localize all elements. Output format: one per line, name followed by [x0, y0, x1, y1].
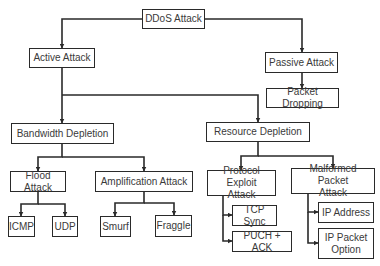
- edge-amplification-to-smurf: [115, 192, 144, 216]
- edge-ddos-to-active: [62, 19, 142, 48]
- node-flood: Flood Attack: [10, 171, 66, 192]
- edge-active-to-resource: [62, 95, 258, 122]
- node-puch-ack: PUCH + ACK: [232, 231, 292, 252]
- ddos-taxonomy-diagram: DDoS AttackActive AttackPassive AttackPa…: [0, 0, 380, 266]
- node-smurf: Smurf: [100, 216, 131, 237]
- node-ip-packet-option: IP Packet Option: [318, 228, 374, 259]
- node-fraggle: Fraggle: [155, 215, 192, 237]
- edge-malformed-to-ip_packet_option: [308, 212, 318, 243]
- edge-bandwidth-to-flood: [38, 144, 62, 171]
- node-amplification: Amplification Attack: [95, 171, 193, 192]
- edge-flood-to-icmp: [21, 192, 38, 216]
- edge-amplification-to-fraggle: [144, 203, 174, 215]
- node-ip-address: IP Address: [318, 202, 374, 223]
- edge-bandwidth-to-amplification: [62, 157, 144, 171]
- node-icmp: ICMP: [8, 216, 35, 237]
- edge-ddos-to-passive: [205, 19, 302, 52]
- node-protocol: Protocol Exploit Attack: [207, 170, 276, 196]
- node-udp: UDP: [52, 216, 78, 237]
- node-tcp-sync: TCP Sync: [232, 205, 277, 226]
- node-bandwidth: Bandwidth Depletion: [11, 123, 114, 144]
- node-ddos: DDoS Attack: [142, 9, 205, 29]
- node-active: Active Attack: [29, 48, 95, 68]
- node-passive: Passive Attack: [265, 52, 338, 73]
- edge-flood-to-udp: [38, 204, 65, 216]
- node-malformed: Malformed Packet Attack: [291, 168, 375, 194]
- node-resource: Resource Depletion: [206, 122, 310, 142]
- node-packet-dropping: Packet Dropping: [266, 88, 339, 108]
- edge-protocol-to-puch_ack: [223, 215, 232, 241]
